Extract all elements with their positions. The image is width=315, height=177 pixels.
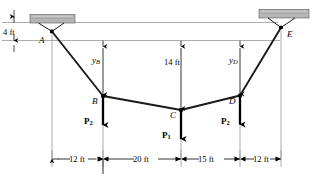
node-label-D: D <box>229 97 236 106</box>
support-block-right <box>259 10 309 28</box>
dimension-label-span-C-D: 15 ft <box>198 155 214 164</box>
node-label-B: B <box>92 97 98 106</box>
force-label-at-B: P2 <box>84 117 93 127</box>
bottom-dimension-chain <box>52 150 281 174</box>
dimension-label-span-B-C: 20 ft <box>133 155 149 164</box>
pin-nodes <box>50 25 283 33</box>
dimension-label-span-D-E: 12 ft <box>253 155 269 164</box>
diagram-canvas <box>0 0 315 177</box>
node-label-E: E <box>287 30 293 39</box>
node-label-A: A <box>39 36 45 45</box>
cable-path <box>52 28 281 111</box>
node-label-C: C <box>170 111 176 120</box>
dimension-label-yD-subscript: D <box>233 58 238 65</box>
dimension-label-14ft: 14 ft <box>164 58 180 67</box>
cable-diagram-figure: 4 ft A B C D E yB 14 ft yD P2 P1 P2 12 f… <box>0 0 315 177</box>
force-label-at-C: P1 <box>162 131 171 141</box>
force-label-at-D-subscript: 2 <box>227 119 230 126</box>
dimension-label-yD: yD <box>229 56 238 66</box>
support-block-left <box>30 15 75 32</box>
force-label-at-B-subscript: 2 <box>90 119 93 126</box>
dimension-label-yB: yB <box>92 56 100 66</box>
force-label-at-D: P2 <box>221 117 230 127</box>
dimension-label-4ft: 4 ft <box>3 28 15 37</box>
force-label-at-C-subscript: 1 <box>168 133 171 140</box>
dimension-label-span-A-B: 12 ft <box>69 155 85 164</box>
dimension-label-yB-subscript: B <box>96 58 100 65</box>
